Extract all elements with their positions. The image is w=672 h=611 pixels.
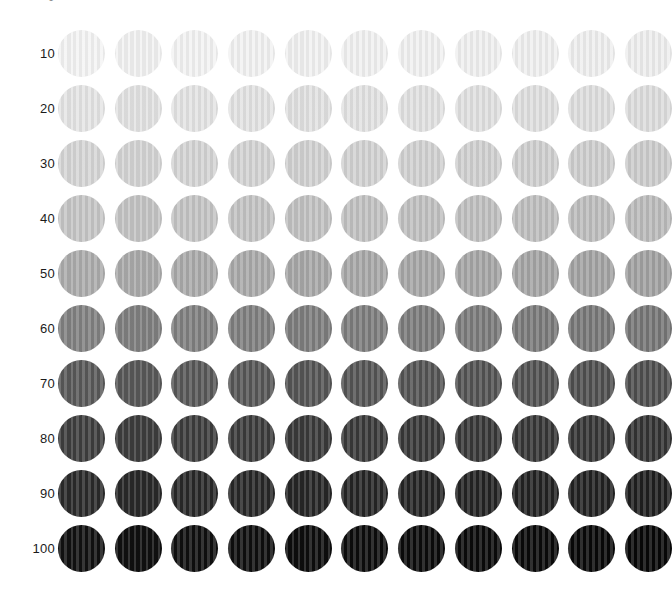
color-swatch-dot xyxy=(228,85,275,132)
swatch-row-dots xyxy=(58,305,672,352)
swatch-row-dots xyxy=(58,250,672,297)
color-swatch-dot xyxy=(455,470,502,517)
color-swatch-dot xyxy=(568,470,615,517)
swatch-row: 60 xyxy=(0,305,672,360)
color-swatch-dot xyxy=(285,195,332,242)
color-swatch-dot xyxy=(512,140,559,187)
color-swatch-dot xyxy=(58,525,105,572)
row-value-label: 40 xyxy=(0,195,55,242)
color-swatch-dot xyxy=(115,415,162,462)
color-swatch-dot xyxy=(398,195,445,242)
color-swatch-dot xyxy=(625,470,672,517)
color-swatch-dot xyxy=(568,415,615,462)
color-swatch-dot xyxy=(285,305,332,352)
color-swatch-dot xyxy=(285,250,332,297)
color-swatch-dot xyxy=(455,525,502,572)
color-swatch-dot xyxy=(455,415,502,462)
color-swatch-dot xyxy=(341,360,388,407)
color-swatch-dot xyxy=(568,525,615,572)
color-swatch-dot xyxy=(228,470,275,517)
row-value-label: 50 xyxy=(0,250,55,297)
color-swatch-dot xyxy=(115,30,162,77)
color-swatch-dot xyxy=(512,525,559,572)
color-swatch-dot xyxy=(115,250,162,297)
swatch-row: 30 xyxy=(0,140,672,195)
color-swatch-dot xyxy=(228,525,275,572)
color-swatch-dot xyxy=(171,30,218,77)
swatch-row-dots xyxy=(58,470,672,517)
color-swatch-dot xyxy=(512,30,559,77)
swatch-row-dots xyxy=(58,85,672,132)
clipped-top-row-label: 0 xyxy=(0,0,55,4)
color-swatch-dot xyxy=(115,305,162,352)
color-swatch-dot xyxy=(398,140,445,187)
color-swatch-dot xyxy=(341,305,388,352)
color-swatch-dot xyxy=(341,195,388,242)
color-swatch-dot xyxy=(228,360,275,407)
color-swatch-dot xyxy=(512,415,559,462)
color-swatch-dot xyxy=(512,195,559,242)
swatch-row: 20 xyxy=(0,85,672,140)
color-swatch-dot xyxy=(455,360,502,407)
color-swatch-dot xyxy=(285,30,332,77)
color-swatch-dot xyxy=(341,140,388,187)
color-swatch-dot xyxy=(341,85,388,132)
color-swatch-dot xyxy=(171,360,218,407)
row-value-label: 30 xyxy=(0,140,55,187)
color-swatch-dot xyxy=(171,195,218,242)
color-swatch-dot xyxy=(58,415,105,462)
color-swatch-dot xyxy=(58,250,105,297)
color-swatch-dot xyxy=(398,85,445,132)
color-swatch-dot xyxy=(341,415,388,462)
color-swatch-dot xyxy=(58,360,105,407)
color-swatch-dot xyxy=(625,195,672,242)
swatch-row-dots xyxy=(58,415,672,462)
swatch-row-dots xyxy=(58,360,672,407)
color-swatch-dot xyxy=(171,415,218,462)
swatch-row: 10 xyxy=(0,30,672,85)
color-swatch-dot xyxy=(58,305,105,352)
color-swatch-dot xyxy=(341,250,388,297)
color-swatch-dot xyxy=(115,195,162,242)
color-swatch-dot xyxy=(285,360,332,407)
row-value-label: 100 xyxy=(0,525,55,572)
color-swatch-dot xyxy=(512,360,559,407)
color-swatch-dot xyxy=(58,30,105,77)
color-swatch-dot xyxy=(512,250,559,297)
color-swatch-dot xyxy=(115,85,162,132)
color-swatch-dot xyxy=(285,85,332,132)
swatch-row-dots xyxy=(58,525,672,572)
row-value-label: 60 xyxy=(0,305,55,352)
color-swatch-dot xyxy=(625,250,672,297)
color-swatch-dot xyxy=(285,470,332,517)
color-swatch-dot xyxy=(285,415,332,462)
swatch-row-dots xyxy=(58,195,672,242)
swatch-row-dots xyxy=(58,30,672,77)
swatch-row: 90 xyxy=(0,470,672,525)
color-swatch-dot xyxy=(398,360,445,407)
color-swatch-dot xyxy=(285,140,332,187)
color-swatch-dot xyxy=(58,195,105,242)
color-swatch-dot xyxy=(625,415,672,462)
color-swatch-dot xyxy=(171,250,218,297)
color-swatch-dot xyxy=(625,525,672,572)
color-swatch-dot xyxy=(398,470,445,517)
color-swatch-dot xyxy=(228,30,275,77)
color-swatch-dot xyxy=(398,525,445,572)
color-swatch-dot xyxy=(568,305,615,352)
swatch-row: 70 xyxy=(0,360,672,415)
row-value-label: 90 xyxy=(0,470,55,517)
color-swatch-dot xyxy=(455,250,502,297)
color-swatch-dot xyxy=(568,360,615,407)
color-swatch-dot xyxy=(455,140,502,187)
color-swatch-dot xyxy=(568,140,615,187)
color-swatch-dot xyxy=(171,525,218,572)
color-swatch-dot xyxy=(341,525,388,572)
color-swatch-dot xyxy=(228,305,275,352)
color-swatch-dot xyxy=(171,140,218,187)
color-swatch-dot xyxy=(455,30,502,77)
color-swatch-dot xyxy=(455,305,502,352)
color-swatch-dot xyxy=(228,415,275,462)
color-swatch-dot xyxy=(285,525,332,572)
color-swatch-dot xyxy=(625,30,672,77)
